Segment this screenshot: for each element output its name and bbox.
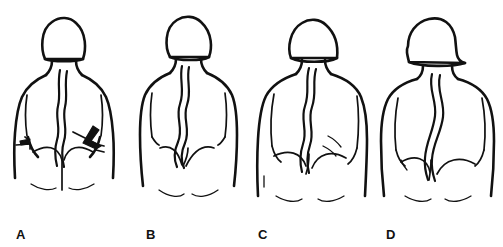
hips-d — [401, 158, 475, 201]
hair-outline-b — [167, 17, 211, 60]
figure-panel-a: A — [0, 0, 126, 247]
hips-b — [159, 147, 218, 196]
panel-label-d: D — [386, 228, 396, 241]
neck-a — [46, 61, 82, 75]
figure-drawing-a — [0, 0, 126, 215]
panel-label-c: C — [258, 228, 268, 241]
figure-drawing-c — [252, 0, 378, 215]
spine-line-a — [55, 70, 67, 167]
figure-plate: A — [0, 0, 503, 247]
hair-outline-c — [289, 20, 337, 62]
hair-outline-d — [407, 18, 465, 66]
hand-left-a — [16, 137, 30, 149]
figure-drawing-b — [126, 0, 252, 215]
panel-label-b: B — [146, 228, 156, 241]
panel-label-a: A — [16, 228, 26, 241]
figure-panel-b: B — [126, 0, 252, 247]
figure-panel-c: C — [252, 0, 378, 247]
figure-panel-d: D — [377, 0, 503, 247]
figure-drawing-d — [377, 0, 503, 215]
neck-d — [417, 66, 458, 79]
hair-outline-a — [42, 18, 85, 61]
hips-c — [274, 152, 346, 201]
